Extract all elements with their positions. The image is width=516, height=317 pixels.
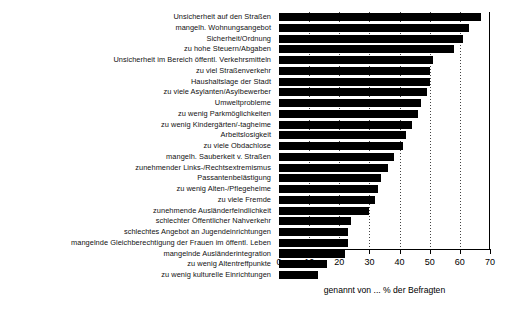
tick-mark-0: [279, 249, 280, 254]
bar-row: [279, 34, 489, 45]
bar: [279, 99, 421, 107]
bar: [279, 24, 469, 32]
category-label: Arbeitslosigkeit: [0, 130, 275, 141]
category-label: zu wenig kulturelle Einrichtungen: [0, 270, 275, 281]
bar-row: [279, 195, 489, 206]
category-label: zu viele Asylanten/Asylbewerber: [0, 87, 275, 98]
category-label: Unsicherheit auf den Straßen: [0, 12, 275, 23]
bar: [279, 56, 433, 64]
tick-label-20: 20: [324, 257, 354, 267]
category-label: zunehmende Ausländerfeindlichkeit: [0, 206, 275, 217]
x-axis-title: genannt von ... % der Befragten: [279, 285, 490, 295]
category-label: zu viele Fremde: [0, 195, 275, 206]
bar: [279, 121, 412, 129]
bar-row: [279, 44, 489, 55]
bar-row: [279, 98, 489, 109]
category-label: mangelnde Ausländerintegration: [0, 249, 275, 260]
bar-chart: Unsicherheit auf den Straßenmangelh. Woh…: [0, 0, 516, 317]
category-label: zu wenig Altentreffpunkte: [0, 259, 275, 270]
bar-row: [279, 55, 489, 66]
bar: [279, 78, 430, 86]
category-label: Passantenbelästigung: [0, 173, 275, 184]
category-label-column: Unsicherheit auf den Straßenmangelh. Woh…: [0, 12, 275, 281]
tick-label-50: 50: [415, 257, 445, 267]
category-label: Umweltprobleme: [0, 98, 275, 109]
tick-label-70: 70: [475, 257, 505, 267]
bar: [279, 164, 388, 172]
bar-row: [279, 120, 489, 131]
bar: [279, 67, 430, 75]
bar: [279, 185, 378, 193]
category-label: zunehmender Links-/Rechtsextremismus: [0, 163, 275, 174]
bar: [279, 88, 427, 96]
bar: [279, 153, 394, 161]
x-axis-line: [279, 249, 490, 250]
category-label: Haushaltslage der Stadt: [0, 77, 275, 88]
category-label: Unsicherheit im Bereich öffentl. Verkehr…: [0, 55, 275, 66]
bar-row: [279, 77, 489, 88]
tick-mark-20: [339, 249, 340, 254]
category-label: zu wenig Kindergärten/-tagheime: [0, 120, 275, 131]
tick-mark-60: [460, 249, 461, 254]
tick-mark-70: [490, 249, 491, 254]
bar: [279, 110, 418, 118]
bar-row: [279, 12, 489, 23]
tick-label-10: 10: [294, 257, 324, 267]
bar: [279, 35, 463, 43]
bar: [279, 131, 406, 139]
bar: [279, 239, 348, 247]
bar-row: [279, 23, 489, 34]
tick-mark-10: [309, 249, 310, 254]
category-label: mangelh. Sauberkeit v. Straßen: [0, 152, 275, 163]
category-label: zu viel Straßenverkehr: [0, 66, 275, 77]
bar-row: [279, 109, 489, 120]
bar: [279, 207, 369, 215]
tick-mark-50: [430, 249, 431, 254]
bar-row: [279, 206, 489, 217]
plot-area: [279, 12, 490, 249]
category-label: zu wenig Alten-/Pflegeheime: [0, 184, 275, 195]
bar-row: [279, 227, 489, 238]
bar-row: [279, 163, 489, 174]
bar-row: [279, 130, 489, 141]
tick-mark-30: [369, 249, 370, 254]
bar-row: [279, 152, 489, 163]
bar-row: [279, 184, 489, 195]
category-label: mangelh. Wohnungsangebot: [0, 23, 275, 34]
tick-mark-40: [400, 249, 401, 254]
bar-row: [279, 87, 489, 98]
bar: [279, 196, 375, 204]
bar-row: [279, 66, 489, 77]
bar: [279, 217, 351, 225]
bar-row: [279, 216, 489, 227]
category-label: schlechtes Angebot an Jugendeinrichtunge…: [0, 227, 275, 238]
bar: [279, 174, 381, 182]
bar-row: [279, 238, 489, 249]
bar: [279, 142, 403, 150]
bar: [279, 271, 318, 279]
category-label: zu wenig Parkmöglichkeiten: [0, 109, 275, 120]
bar-row: [279, 173, 489, 184]
category-label: mangelnde Gleichberechtigung der Frauen …: [0, 238, 275, 249]
bar: [279, 13, 481, 21]
bar: [279, 45, 454, 53]
category-label: schlechter Öffentlicher Nahverkehr: [0, 216, 275, 227]
tick-label-30: 30: [354, 257, 384, 267]
bar-row: [279, 141, 489, 152]
category-label: Sicherheit/Ordnung: [0, 34, 275, 45]
tick-label-0: 0: [264, 257, 294, 267]
category-label: zu viele Obdachlose: [0, 141, 275, 152]
tick-label-40: 40: [385, 257, 415, 267]
bar-row: [279, 270, 489, 281]
tick-label-60: 60: [445, 257, 475, 267]
category-label: zu hohe Steuern/Abgaben: [0, 44, 275, 55]
bar: [279, 228, 348, 236]
